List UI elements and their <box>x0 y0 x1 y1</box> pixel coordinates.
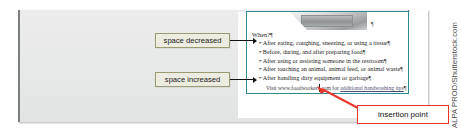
list-item[interactable]: •·After using or assisting someone in th… <box>252 57 408 66</box>
list-item-text: Before, during, and after preparing food <box>263 48 363 55</box>
pilcrow-mark: ¶ <box>400 66 403 72</box>
callout-insertion-point: insertion point <box>357 105 449 124</box>
leader-line-space-decreased <box>230 40 254 41</box>
list-item-text: After using or assisting someone in the … <box>263 57 384 64</box>
list-item-text: After eating, coughing, sneezing, or usi… <box>263 39 388 46</box>
pilcrow-mark: ¶ <box>363 49 366 55</box>
list-item-text: After handling dirty equipment or garbag… <box>263 74 369 81</box>
list-item-text: After touching an animal, animal feed, o… <box>263 65 401 72</box>
list-item[interactable]: •·After handling dirty equipment or garb… <box>252 74 408 83</box>
list-item[interactable]: •·Before, during, and after preparing fo… <box>252 48 408 57</box>
when-heading-line: When?¶ <box>252 31 408 39</box>
arrow-icon-space-decreased <box>253 38 257 44</box>
arrow-icon-space-increased <box>253 77 257 83</box>
red-arrow-icon <box>314 86 360 110</box>
pilcrow-mark: ¶ <box>270 32 273 38</box>
callout-space-increased: space increased <box>155 72 230 87</box>
pilcrow-mark: ¶ <box>384 58 387 64</box>
bullet-icon: • <box>259 66 261 72</box>
document-text-block[interactable]: When?¶ •·After eating, coughing, sneezin… <box>252 31 408 83</box>
pilcrow-mark: ¶ <box>388 40 391 46</box>
callout-space-increased-label: space increased <box>165 75 220 84</box>
callout-space-decreased: space decreased <box>155 33 230 48</box>
list-item[interactable]: •·After touching an animal, animal feed,… <box>252 65 408 74</box>
bullet-list: •·After eating, coughing, sneezing, or u… <box>252 39 408 83</box>
watermark-credit: ALPA PROD/Shutterstock.com <box>448 4 460 128</box>
page-left-edge <box>18 10 20 122</box>
bullet-icon: • <box>259 58 261 64</box>
pilcrow-mark: ¶ <box>369 75 372 81</box>
pilcrow-mark: ¶ <box>404 85 407 91</box>
callout-space-decreased-label: space decreased <box>164 36 222 45</box>
screenshot-root: ¶ When?¶ •·After eating, coughing, sneez… <box>0 0 461 132</box>
list-item[interactable]: •·After eating, coughing, sneezing, or u… <box>252 39 408 48</box>
bullet-icon: • <box>259 75 261 81</box>
bullet-icon: • <box>259 40 261 46</box>
callout-insertion-point-label: insertion point <box>378 110 428 119</box>
leader-line-space-increased <box>230 79 254 80</box>
bullet-icon: • <box>259 49 261 55</box>
